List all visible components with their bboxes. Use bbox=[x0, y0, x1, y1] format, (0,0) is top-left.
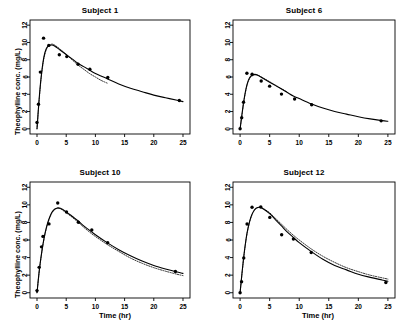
svg-text:8: 8 bbox=[225, 220, 232, 224]
panel-subject-12: Subject 12 Time (hr) 0246810120510152025 bbox=[203, 164, 405, 328]
svg-text:5: 5 bbox=[64, 303, 68, 310]
theophylline-figure: Subject 1 Theophylline conc. (mg/L) 0246… bbox=[0, 0, 405, 328]
svg-text:2: 2 bbox=[22, 109, 29, 113]
svg-text:25: 25 bbox=[179, 303, 187, 310]
svg-text:5: 5 bbox=[268, 303, 272, 310]
panel-subject-6: Subject 6 0246810120510152025 bbox=[203, 0, 405, 160]
svg-text:2: 2 bbox=[225, 109, 232, 113]
svg-text:10: 10 bbox=[225, 38, 232, 46]
svg-text:20: 20 bbox=[150, 139, 158, 146]
svg-text:0: 0 bbox=[238, 139, 242, 146]
plot-area-subject-6: 0246810120510152025 bbox=[203, 0, 405, 160]
svg-text:0: 0 bbox=[22, 127, 29, 131]
svg-text:0: 0 bbox=[238, 303, 242, 310]
svg-text:15: 15 bbox=[325, 303, 333, 310]
svg-text:4: 4 bbox=[22, 92, 29, 96]
svg-text:25: 25 bbox=[179, 139, 187, 146]
svg-text:0: 0 bbox=[22, 291, 29, 295]
svg-text:10: 10 bbox=[22, 38, 29, 46]
svg-text:25: 25 bbox=[384, 139, 392, 146]
svg-text:5: 5 bbox=[268, 139, 272, 146]
svg-text:10: 10 bbox=[92, 139, 100, 146]
svg-text:12: 12 bbox=[225, 183, 232, 191]
svg-text:25: 25 bbox=[384, 303, 392, 310]
plot-area-subject-12: 0246810120510152025 bbox=[203, 164, 405, 328]
svg-text:5: 5 bbox=[64, 139, 68, 146]
svg-text:8: 8 bbox=[22, 58, 29, 62]
svg-text:8: 8 bbox=[225, 58, 232, 62]
svg-text:20: 20 bbox=[355, 303, 363, 310]
svg-text:6: 6 bbox=[22, 75, 29, 79]
svg-text:15: 15 bbox=[325, 139, 333, 146]
svg-text:10: 10 bbox=[296, 303, 304, 310]
svg-text:0: 0 bbox=[35, 139, 39, 146]
svg-text:4: 4 bbox=[22, 255, 29, 259]
svg-text:6: 6 bbox=[22, 238, 29, 242]
svg-text:2: 2 bbox=[225, 273, 232, 277]
svg-text:10: 10 bbox=[22, 201, 29, 209]
svg-text:10: 10 bbox=[225, 201, 232, 209]
svg-text:8: 8 bbox=[22, 220, 29, 224]
svg-text:10: 10 bbox=[296, 139, 304, 146]
svg-text:20: 20 bbox=[355, 139, 363, 146]
svg-text:0: 0 bbox=[225, 291, 232, 295]
svg-text:4: 4 bbox=[225, 92, 232, 96]
svg-text:0: 0 bbox=[35, 303, 39, 310]
svg-text:10: 10 bbox=[92, 303, 100, 310]
svg-text:15: 15 bbox=[121, 139, 129, 146]
svg-text:6: 6 bbox=[225, 75, 232, 79]
plot-area-subject-1: 0246810120510152025 bbox=[0, 0, 200, 160]
panel-subject-1: Subject 1 Theophylline conc. (mg/L) 0246… bbox=[0, 0, 200, 160]
svg-text:0: 0 bbox=[225, 127, 232, 131]
svg-text:4: 4 bbox=[225, 255, 232, 259]
svg-text:12: 12 bbox=[22, 183, 29, 191]
panel-subject-10: Subject 10 Theophylline conc. (mg/L) Tim… bbox=[0, 164, 200, 328]
svg-text:6: 6 bbox=[225, 238, 232, 242]
svg-text:15: 15 bbox=[121, 303, 129, 310]
svg-text:12: 12 bbox=[22, 21, 29, 29]
svg-text:2: 2 bbox=[22, 273, 29, 277]
svg-text:12: 12 bbox=[225, 21, 232, 29]
svg-text:20: 20 bbox=[150, 303, 158, 310]
plot-area-subject-10: 0246810120510152025 bbox=[0, 164, 200, 328]
